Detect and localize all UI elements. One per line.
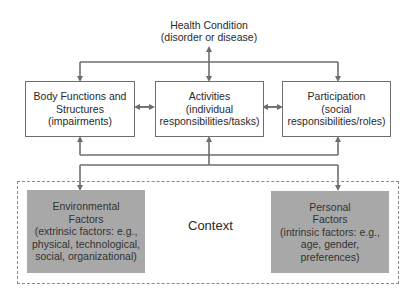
- body-functions-line-2: Structures: [56, 103, 104, 116]
- environmental-line-4: physical, technological,: [32, 238, 140, 251]
- personal-line-3: (intrinsic factors: e.g.,: [280, 226, 380, 239]
- participation-line-2: (social: [321, 103, 351, 116]
- health-condition-title: Health Condition: [170, 19, 248, 32]
- participation-line-1: Participation: [308, 90, 366, 103]
- participation-line-3: responsibilities/roles): [287, 115, 385, 128]
- icf-diagram: Health Condition (disorder or disease) B…: [0, 0, 414, 302]
- health-condition-subtitle: (disorder or disease): [161, 31, 257, 44]
- participation-box: Participation (social responsibilities/r…: [282, 81, 391, 137]
- personal-line-4: age, gender,: [301, 238, 359, 251]
- body-functions-box: Body Functions and Structures (impairmen…: [25, 81, 135, 137]
- health-condition-label: Health Condition (disorder or disease): [150, 17, 268, 45]
- personal-line-1: Personal: [309, 201, 350, 214]
- activities-box: Activities (individual responsibilities/…: [155, 81, 264, 137]
- body-functions-line-3: (impairments): [48, 115, 112, 128]
- activities-line-3: responsibilities/tasks): [160, 115, 260, 128]
- environmental-line-2: Factors: [68, 213, 103, 226]
- environmental-line-3: (extrinsic factors: e.g.,: [35, 225, 138, 238]
- personal-factors-box: Personal Factors (intrinsic factors: e.g…: [271, 191, 389, 273]
- environmental-line-5: social, organizational): [35, 250, 137, 263]
- activities-line-1: Activities: [189, 90, 230, 103]
- personal-line-2: Factors: [312, 213, 347, 226]
- activities-line-2: (individual: [186, 103, 233, 116]
- body-functions-line-1: Body Functions and: [34, 90, 127, 103]
- environmental-line-1: Environmental: [52, 200, 119, 213]
- environmental-factors-box: Environmental Factors (extrinsic factors…: [27, 190, 145, 273]
- context-label: Context: [188, 218, 233, 233]
- personal-line-5: preferences): [301, 251, 360, 264]
